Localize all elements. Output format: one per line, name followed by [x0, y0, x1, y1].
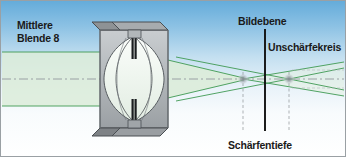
label-aperture: Mittlere Blende 8	[17, 19, 59, 44]
aperture-blade-top-left	[132, 37, 134, 59]
label-aperture-line2: Blende 8	[17, 32, 59, 45]
label-circle-of-confusion: Unschärfekreis	[268, 41, 341, 54]
label-aperture-line1: Mittlere	[17, 19, 59, 32]
circle-of-confusion-near	[238, 74, 249, 85]
label-image-plane: Bildebene	[238, 15, 286, 28]
aperture-blade-top-right	[135, 37, 137, 59]
aperture-mount-top	[128, 30, 141, 38]
label-depth-of-field: Schärfentiefe	[228, 139, 292, 152]
barrel-flange-top	[112, 22, 168, 30]
aperture-blade-bottom-left	[132, 99, 134, 121]
lens-barrel	[92, 22, 168, 136]
circle-of-confusion-far	[284, 74, 295, 85]
barrel-flange-bottom	[112, 128, 168, 136]
aperture-blade-bottom-right	[135, 99, 137, 121]
aperture-mount-bottom	[128, 120, 141, 128]
optics-diagram-figure: Mittlere Blende 8 Bildebene Unschärfekre…	[0, 0, 346, 157]
